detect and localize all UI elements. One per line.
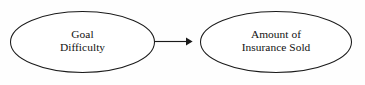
diagram-canvas: Goal Difficulty Amount of Insurance Sold — [0, 0, 365, 85]
node-goal-difficulty-label: Goal Difficulty — [10, 28, 155, 55]
arrowhead-icon — [186, 38, 193, 46]
node-amount-of-insurance-sold-label-line1: Amount of — [200, 28, 352, 41]
node-amount-of-insurance-sold-label-line2: Insurance Sold — [200, 41, 352, 54]
node-amount-of-insurance-sold-label: Amount of Insurance Sold — [200, 28, 352, 55]
node-goal-difficulty-label-line2: Difficulty — [10, 41, 155, 54]
edge-goal-to-insurance[interactable] — [155, 38, 193, 46]
node-goal-difficulty-label-line1: Goal — [10, 28, 155, 41]
